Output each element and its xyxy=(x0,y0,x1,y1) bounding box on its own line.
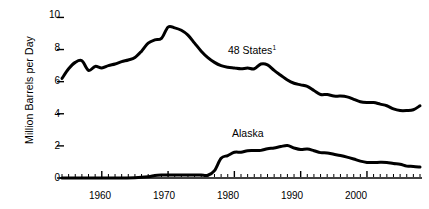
plot-area xyxy=(0,0,429,209)
axis-ticks xyxy=(57,17,420,178)
chart-figure: Million Barrels per Day 10 8 6 4 2 0 196… xyxy=(0,0,429,209)
data-series-lines xyxy=(62,26,420,178)
series-line-48-states xyxy=(62,26,420,110)
